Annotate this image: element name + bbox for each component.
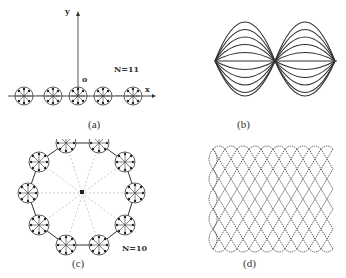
linear-chain-diagram: ··· ··· xyxy=(0,0,173,120)
y-axis-label: y xyxy=(65,6,70,16)
svg-text:···: ··· xyxy=(115,91,123,100)
panel-label-d: (d) xyxy=(243,257,256,269)
n-label: N=11 xyxy=(114,64,139,74)
figure-caption xyxy=(0,270,346,278)
center-point xyxy=(80,190,84,194)
x-axis-label: x xyxy=(145,84,150,94)
panel-label-b: (b) xyxy=(237,118,250,130)
origin-label: o xyxy=(82,74,87,84)
standing-wave-diagram xyxy=(173,0,346,120)
ring-diagram xyxy=(0,139,173,259)
panel-label-a: (a) xyxy=(88,118,100,130)
panel-label-c: (c) xyxy=(72,257,84,269)
panel-b: (b) xyxy=(173,0,346,139)
panel-a: ··· ··· y x o N=11 (a) xyxy=(0,0,173,139)
svg-text:···: ··· xyxy=(36,91,44,100)
panel-d: (d) xyxy=(173,139,346,278)
wave-lattice-diagram xyxy=(173,139,346,259)
panel-c: N=10 (c) xyxy=(0,139,173,278)
n-label: N=10 xyxy=(122,243,147,253)
